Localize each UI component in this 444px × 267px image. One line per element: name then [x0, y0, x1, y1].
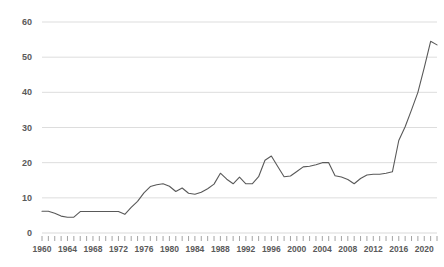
y-tick-label: 60: [6, 17, 32, 27]
x-tick-label: 1960: [33, 244, 52, 254]
data-series-line: [42, 41, 437, 217]
y-tick-label: 40: [6, 87, 32, 97]
y-tick-label: 20: [6, 158, 32, 168]
y-tick-label: 10: [6, 193, 32, 203]
x-tick-label: 2000: [287, 244, 306, 254]
x-tick-label: 1984: [185, 244, 204, 254]
x-tick-label: 1992: [236, 244, 255, 254]
x-axis-tick-marks: [42, 236, 437, 241]
line-chart: 0102030405060 19601964196819721976198019…: [0, 0, 444, 267]
x-tick-label: 1976: [134, 244, 153, 254]
y-tick-label: 30: [6, 123, 32, 133]
x-tick-label: 1968: [83, 244, 102, 254]
chart-plot-svg: [0, 0, 444, 267]
x-tick-label: 1996: [262, 244, 281, 254]
y-tick-label: 0: [6, 228, 32, 238]
x-tick-label: 1980: [160, 244, 179, 254]
x-tick-label: 2016: [389, 244, 408, 254]
x-tick-label: 2020: [415, 244, 434, 254]
x-tick-label: 2012: [364, 244, 383, 254]
x-tick-label: 1988: [211, 244, 230, 254]
x-tick-label: 1964: [58, 244, 77, 254]
x-tick-label: 2008: [338, 244, 357, 254]
y-tick-label: 50: [6, 52, 32, 62]
x-tick-label: 2004: [313, 244, 332, 254]
x-tick-label: 1972: [109, 244, 128, 254]
gridlines: [42, 22, 437, 233]
